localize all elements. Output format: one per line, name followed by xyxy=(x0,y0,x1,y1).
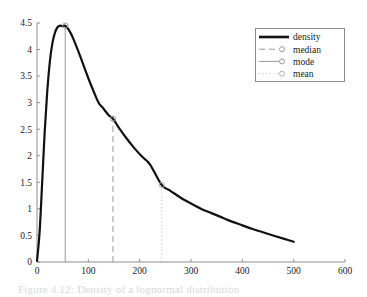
x-tick-label: 0 xyxy=(35,266,40,276)
figure-container: 00.511.522.533.544.5 0100200300400500600… xyxy=(0,0,367,297)
legend-label-median: median xyxy=(293,45,321,55)
x-tick-label: 600 xyxy=(338,266,353,276)
figure-caption: Figure 4.12: Density of a lognormal dist… xyxy=(18,283,239,295)
x-tick-label: 400 xyxy=(235,266,250,276)
y-tick-label: 3.5 xyxy=(20,71,32,81)
y-tick-label: 1 xyxy=(27,204,32,214)
y-tick-label: 2 xyxy=(27,151,32,161)
y-tick-label: 1.5 xyxy=(20,178,32,188)
y-tick-label: 3 xyxy=(27,98,32,108)
legend-label-mean: mean xyxy=(293,69,314,79)
x-tick-label: 100 xyxy=(81,266,96,276)
chart-legend: densitymedianmodemean xyxy=(256,29,345,82)
statistic-marker-lines xyxy=(65,26,162,262)
y-tick-label: 0 xyxy=(27,257,32,267)
legend-label-mode: mode xyxy=(293,57,314,67)
y-tick-label: 4.5 xyxy=(20,18,32,28)
legend-label-density: density xyxy=(293,32,321,42)
y-tick-label: 4 xyxy=(27,45,32,55)
x-tick-label: 300 xyxy=(184,266,199,276)
x-tick-label: 500 xyxy=(287,266,302,276)
x-tick-label: 200 xyxy=(133,266,148,276)
density-chart: 00.511.522.533.544.5 0100200300400500600… xyxy=(0,0,367,297)
y-tick-label: 0.5 xyxy=(20,231,32,241)
y-tick-label: 2.5 xyxy=(20,125,32,135)
